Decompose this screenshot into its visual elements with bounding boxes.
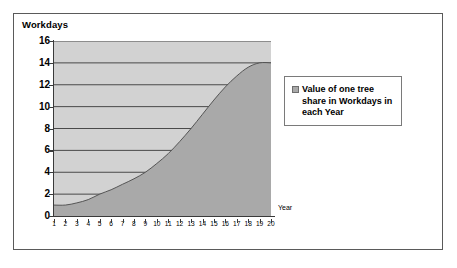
x-axis-tick-mark — [191, 219, 192, 223]
x-axis-tick-mark — [111, 219, 112, 223]
x-axis-tick-mark — [203, 219, 204, 223]
x-axis-tick-mark — [134, 219, 135, 223]
area-chart-svg — [54, 41, 271, 216]
legend-color-swatch-icon — [292, 86, 299, 93]
y-axis-tick-mark — [49, 129, 54, 130]
x-axis-tick-mark — [168, 219, 169, 223]
y-axis-tick-mark — [49, 150, 54, 151]
x-axis-title: Year — [278, 204, 292, 211]
x-axis-tick-mark — [100, 219, 101, 223]
legend-item: Value of one tree share in Workdays in e… — [292, 84, 395, 119]
y-axis-tick-mark — [49, 63, 54, 64]
y-axis-tick-mark — [49, 85, 54, 86]
area-series-fill — [54, 63, 271, 216]
x-axis-tick-mark — [248, 219, 249, 223]
x-axis-tick-mark — [157, 219, 158, 223]
y-axis-tick-mark — [49, 216, 54, 217]
x-axis-tick-mark — [54, 219, 55, 223]
x-axis-tick-mark — [214, 219, 215, 223]
chart-frame: Workdays 0246810121416 12345678910111213… — [13, 13, 443, 250]
x-axis-tick-mark — [225, 219, 226, 223]
plot-area — [54, 41, 271, 216]
x-axis-line — [53, 216, 275, 217]
x-axis-tick-mark — [77, 219, 78, 223]
y-axis-tick-labels: 0246810121416 — [14, 14, 50, 251]
legend-box: Value of one tree share in Workdays in e… — [284, 76, 402, 126]
legend-item-label: Value of one tree share in Workdays in e… — [302, 84, 395, 119]
x-axis-tick-mark — [180, 219, 181, 223]
y-axis-tick-mark — [49, 107, 54, 108]
x-axis-tick-mark — [271, 219, 272, 223]
x-axis-tick-mark — [145, 219, 146, 223]
x-axis-tick-mark — [237, 219, 238, 223]
y-axis-tick-mark — [49, 41, 54, 42]
x-axis-tick-mark — [260, 219, 261, 223]
x-axis-tick-labels: 1234567891011121314151617181920 — [54, 219, 272, 233]
y-axis-tick-mark — [49, 194, 54, 195]
x-axis-tick-mark — [65, 219, 66, 223]
x-axis-tick-mark — [88, 219, 89, 223]
x-axis-tick-mark — [123, 219, 124, 223]
y-axis-tick-mark — [49, 172, 54, 173]
